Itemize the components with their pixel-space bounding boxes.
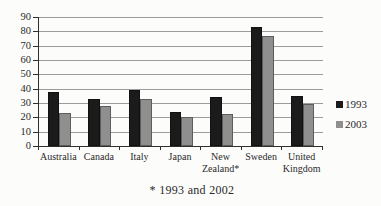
x-axis-tick bbox=[38, 146, 39, 150]
x-axis-tick bbox=[200, 146, 201, 150]
bar-1993 bbox=[291, 96, 303, 146]
x-axis-tick bbox=[322, 146, 323, 150]
y-axis-tick bbox=[33, 17, 38, 18]
y-axis-tick bbox=[33, 31, 38, 32]
chart-footnote: * 1993 and 2002 bbox=[38, 183, 346, 198]
y-axis-label: 70 bbox=[0, 40, 31, 52]
legend-item-2003: 2003 bbox=[336, 119, 367, 130]
grouped-bar-chart: 19932003 * 1993 and 2002 010203040506070… bbox=[0, 0, 381, 206]
bar-1993 bbox=[251, 27, 263, 146]
bar-2003 bbox=[303, 104, 315, 146]
bar-1993 bbox=[129, 90, 141, 146]
bar-2003 bbox=[100, 106, 112, 146]
legend-swatch-2003 bbox=[336, 121, 343, 128]
y-axis-label: 50 bbox=[0, 68, 31, 80]
gridline bbox=[39, 46, 323, 47]
x-axis-tick bbox=[79, 146, 80, 150]
gridline bbox=[39, 103, 323, 104]
y-axis-label: 60 bbox=[0, 54, 31, 66]
bar-1993 bbox=[48, 92, 60, 146]
y-axis-tick bbox=[33, 103, 38, 104]
x-axis-tick bbox=[281, 146, 282, 150]
bar-2003 bbox=[181, 117, 193, 146]
bar-1993 bbox=[170, 112, 182, 146]
x-axis-label: United Kingdom bbox=[278, 151, 326, 174]
y-axis-tick bbox=[33, 60, 38, 61]
gridline bbox=[39, 89, 323, 90]
gridline bbox=[39, 17, 323, 18]
y-axis-label: 10 bbox=[0, 126, 31, 138]
x-axis-tick bbox=[160, 146, 161, 150]
gridline bbox=[39, 60, 323, 61]
y-axis-label: 20 bbox=[0, 111, 31, 123]
y-axis-tick bbox=[33, 46, 38, 47]
bar-2003 bbox=[222, 114, 234, 146]
bar-1993 bbox=[88, 99, 100, 146]
bar-2003 bbox=[262, 36, 274, 146]
legend-label-1993: 1993 bbox=[345, 99, 367, 110]
y-axis-tick bbox=[33, 117, 38, 118]
y-axis-label: 90 bbox=[0, 11, 31, 23]
y-axis-tick bbox=[33, 132, 38, 133]
legend-label-2003: 2003 bbox=[345, 119, 367, 130]
y-axis-label: 30 bbox=[0, 97, 31, 109]
y-axis-tick bbox=[33, 74, 38, 75]
x-axis-tick bbox=[119, 146, 120, 150]
bar-2003 bbox=[140, 99, 152, 146]
gridline bbox=[39, 74, 323, 75]
y-axis-label: 80 bbox=[0, 25, 31, 37]
y-axis-tick bbox=[33, 89, 38, 90]
legend-item-1993: 1993 bbox=[336, 99, 367, 110]
y-axis-label: 40 bbox=[0, 83, 31, 95]
legend: 19932003 bbox=[336, 99, 367, 139]
y-axis-label: 0 bbox=[0, 140, 31, 152]
legend-swatch-1993 bbox=[336, 101, 343, 108]
x-axis-tick bbox=[241, 146, 242, 150]
gridline bbox=[39, 31, 323, 32]
bar-1993 bbox=[210, 97, 222, 146]
bar-2003 bbox=[59, 113, 71, 146]
plot-area bbox=[38, 17, 323, 147]
